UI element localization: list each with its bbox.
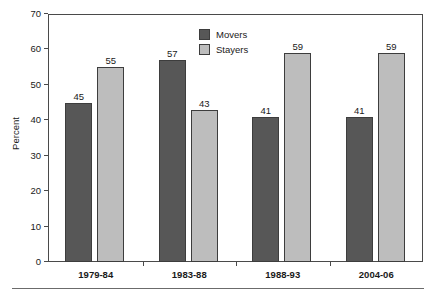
bar-value-label: 57: [167, 48, 178, 59]
y-tick-label: 50: [30, 78, 41, 91]
y-tick-mark: [44, 261, 48, 262]
x-tick-mark: [330, 262, 331, 266]
bar-movers-2004-06[interactable]: 41: [346, 117, 373, 262]
bar-group: 4159: [252, 14, 311, 262]
bar-movers-1988-93[interactable]: 41: [252, 117, 279, 262]
x-axis: 1979-841983-881988-932004-06: [49, 262, 423, 282]
legend-swatch-stayers: [199, 44, 210, 55]
bar-value-label: 59: [292, 41, 303, 52]
y-axis-title: Percent: [10, 99, 21, 169]
x-tick-label-1979-84: 1979-84: [78, 268, 113, 281]
legend-label: Movers: [216, 29, 247, 40]
bar-stayers-1988-93[interactable]: 59: [284, 53, 311, 262]
y-tick-mark: [44, 119, 48, 120]
legend-label: Stayers: [216, 44, 248, 55]
y-tick-mark: [44, 13, 48, 14]
bar-value-label: 45: [73, 91, 84, 102]
y-tick-label: 30: [30, 149, 41, 162]
x-tick-label-2004-06: 2004-06: [359, 268, 394, 281]
bar-value-label: 41: [354, 105, 365, 116]
bar-value-label: 41: [260, 105, 271, 116]
bar-stayers-1979-84[interactable]: 55: [97, 67, 124, 262]
bar-value-label: 55: [105, 55, 116, 66]
bar-group: 4555: [65, 14, 124, 262]
y-tick-label: 40: [30, 113, 41, 126]
bar-stayers-1983-88[interactable]: 43: [191, 110, 218, 262]
x-tick-mark: [143, 262, 144, 266]
y-tick-mark: [44, 84, 48, 85]
y-tick-mark: [44, 226, 48, 227]
y-tick-label: 20: [30, 184, 41, 197]
legend-item-stayers[interactable]: Stayers: [199, 44, 248, 55]
bar-value-label: 43: [199, 98, 210, 109]
x-tick-label-1988-93: 1988-93: [265, 268, 300, 281]
y-tick-label: 0: [36, 255, 41, 268]
y-tick-mark: [44, 155, 48, 156]
y-tick-label: 70: [30, 7, 41, 20]
x-tick-mark: [236, 262, 237, 266]
bar-stayers-2004-06[interactable]: 59: [378, 53, 405, 262]
footer-divider: [12, 288, 424, 289]
legend-swatch-movers: [199, 29, 210, 40]
x-tick-label-1983-88: 1983-88: [172, 268, 207, 281]
bar-group: 4159: [346, 14, 405, 262]
y-tick-label: 60: [30, 42, 41, 55]
bar-movers-1983-88[interactable]: 57: [159, 60, 186, 262]
y-tick-label: 10: [30, 220, 41, 233]
bar-value-label: 59: [386, 41, 397, 52]
bar-chart-figure: 010203040506070 Percent 4555574341594159…: [0, 0, 436, 299]
y-tick-mark: [44, 190, 48, 191]
legend-item-movers[interactable]: Movers: [199, 29, 248, 40]
y-tick-mark: [44, 48, 48, 49]
bar-movers-1979-84[interactable]: 45: [65, 103, 92, 262]
chart-legend: MoversStayers: [199, 29, 248, 59]
